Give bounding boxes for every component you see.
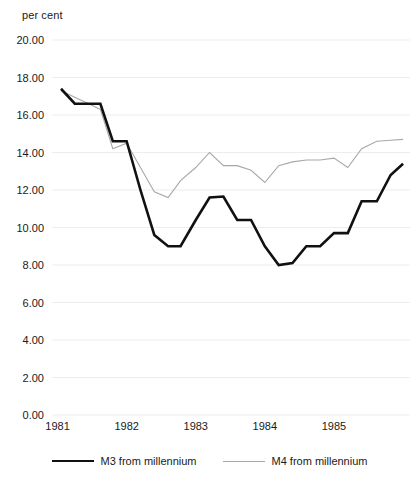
x-axis-tick-label: 1983 — [184, 420, 208, 432]
x-axis-tick-label: 1981 — [45, 420, 69, 432]
chart-legend: M3 from millenniumM4 from millennium — [0, 455, 419, 467]
legend-label: M4 from millennium — [272, 455, 368, 467]
series-line — [61, 91, 403, 198]
legend-item[interactable]: M3 from millennium — [52, 455, 197, 467]
legend-label: M3 from millennium — [101, 455, 197, 467]
plot-area — [0, 0, 419, 482]
x-axis-tick-label: 1984 — [253, 420, 277, 432]
legend-item[interactable]: M4 from millennium — [223, 455, 368, 467]
x-axis-tick-label: 1982 — [114, 420, 138, 432]
legend-line-swatch — [223, 461, 265, 462]
gridlines — [52, 40, 410, 415]
x-axis-tick-label: 1985 — [322, 420, 346, 432]
line-chart: per cent 20.0018.0016.0014.0012.0010.008… — [0, 0, 419, 482]
legend-line-swatch — [52, 460, 94, 462]
